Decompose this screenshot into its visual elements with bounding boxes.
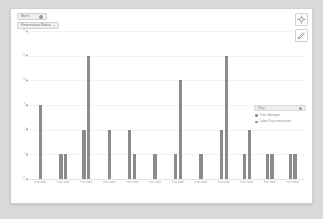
x-axis-tick-label: Full time (121, 181, 144, 195)
x-axis-tick-label: Full time (75, 181, 98, 195)
bar-group (144, 31, 167, 179)
bar[interactable] (128, 130, 131, 179)
y-axis-tick-label: 5 (23, 54, 25, 57)
y-axis-tick-mark (26, 30, 28, 32)
x-axis-tick-label: Part time (189, 181, 212, 195)
legend-item-label: Labor Day reservation (260, 120, 291, 123)
y-axis-tick-mark (26, 55, 28, 57)
bar[interactable] (179, 80, 182, 179)
bar[interactable] (87, 56, 90, 179)
bar-group (52, 31, 75, 179)
x-axis-tick-label: Full time (29, 181, 52, 195)
bar-group (212, 31, 235, 179)
bar[interactable] (133, 154, 136, 179)
bar[interactable] (153, 154, 156, 179)
y-axis-tick-mark (26, 153, 28, 155)
chart-tools (295, 13, 308, 42)
y-axis: 0123456 (15, 31, 29, 179)
bar-group (167, 31, 190, 179)
y-axis-tick-label: 2 (23, 128, 25, 131)
x-axis-tick-label: Part time (98, 181, 121, 195)
legend-items: Time ManagerLabor Day reservation (254, 114, 306, 123)
legend-swatch (255, 121, 258, 124)
legend-item[interactable]: Labor Day reservation (254, 120, 306, 123)
bar[interactable] (266, 154, 269, 179)
bar-group (121, 31, 144, 179)
chart-widget: Metric Reservation Status × 0123 (10, 8, 313, 204)
bar[interactable] (243, 154, 246, 179)
bar-group (75, 31, 98, 179)
y-axis-tick: 0 (23, 177, 28, 180)
y-axis-tick: 2 (23, 128, 28, 131)
y-axis-tick-label: 1 (23, 153, 25, 156)
bar[interactable] (82, 130, 85, 179)
bar[interactable] (289, 154, 292, 179)
bar[interactable] (39, 105, 42, 179)
bar-group (189, 31, 212, 179)
bar[interactable] (59, 154, 62, 179)
bar[interactable] (225, 56, 228, 179)
chevron-down-icon (39, 15, 43, 19)
y-axis-tick-label: 6 (23, 29, 25, 32)
edit-button[interactable] (295, 29, 308, 42)
pencil-icon (297, 31, 306, 40)
legend-item-label: Time Manager (260, 114, 280, 117)
crosshair-icon (297, 15, 306, 24)
y-axis-tick-label: 0 (23, 177, 25, 180)
y-axis-tick-mark (26, 104, 28, 106)
y-axis-tick: 1 (23, 153, 28, 156)
x-axis-tick-label: Full time (167, 181, 190, 195)
legend: Step Time ManagerLabor Day reservation (254, 105, 306, 123)
y-axis-tick: 6 (23, 29, 28, 32)
close-icon[interactable]: × (53, 24, 55, 28)
legend-header-label: Step (258, 105, 265, 111)
focus-button[interactable] (295, 13, 308, 26)
y-axis-tick: 3 (23, 103, 28, 106)
bar[interactable] (270, 154, 273, 179)
legend-swatch (255, 114, 258, 117)
y-axis-tick-mark (26, 129, 28, 131)
x-axis-tick-label: Full time (258, 181, 281, 195)
x-axis-tick-label: Part time (144, 181, 167, 195)
dimension-select[interactable]: Metric (17, 13, 47, 20)
bar-group (29, 31, 52, 179)
bar[interactable] (220, 130, 223, 179)
bar[interactable] (199, 154, 202, 179)
dimension-select-label: Metric (21, 13, 31, 20)
x-axis-tick-label: Full time (212, 181, 235, 195)
chevron-down-icon (299, 107, 302, 110)
legend-item[interactable]: Time Manager (254, 114, 306, 117)
bar[interactable] (108, 130, 111, 179)
y-axis-tick: 5 (23, 54, 28, 57)
y-axis-tick-label: 3 (23, 103, 25, 106)
y-axis-tick-mark (26, 79, 28, 81)
x-axis-tick-label: Part time (52, 181, 75, 195)
bar-group (98, 31, 121, 179)
bar[interactable] (64, 154, 67, 179)
bar[interactable] (293, 154, 296, 179)
filter-chip-label: Reservation Status (21, 22, 51, 29)
filter-chip[interactable]: Reservation Status × (17, 22, 59, 29)
x-axis: Full timePart timeFull timePart timeFull… (29, 181, 304, 195)
x-axis-tick-label: Part time (281, 181, 304, 195)
gridline (29, 179, 304, 180)
chart-controls: Metric Reservation Status × (17, 13, 59, 29)
y-axis-tick: 4 (23, 79, 28, 82)
legend-header[interactable]: Step (254, 105, 306, 111)
bar[interactable] (174, 154, 177, 179)
y-axis-tick-mark (26, 178, 28, 180)
x-axis-tick-label: Part time (235, 181, 258, 195)
bar[interactable] (248, 130, 251, 179)
y-axis-tick-label: 4 (23, 79, 25, 82)
